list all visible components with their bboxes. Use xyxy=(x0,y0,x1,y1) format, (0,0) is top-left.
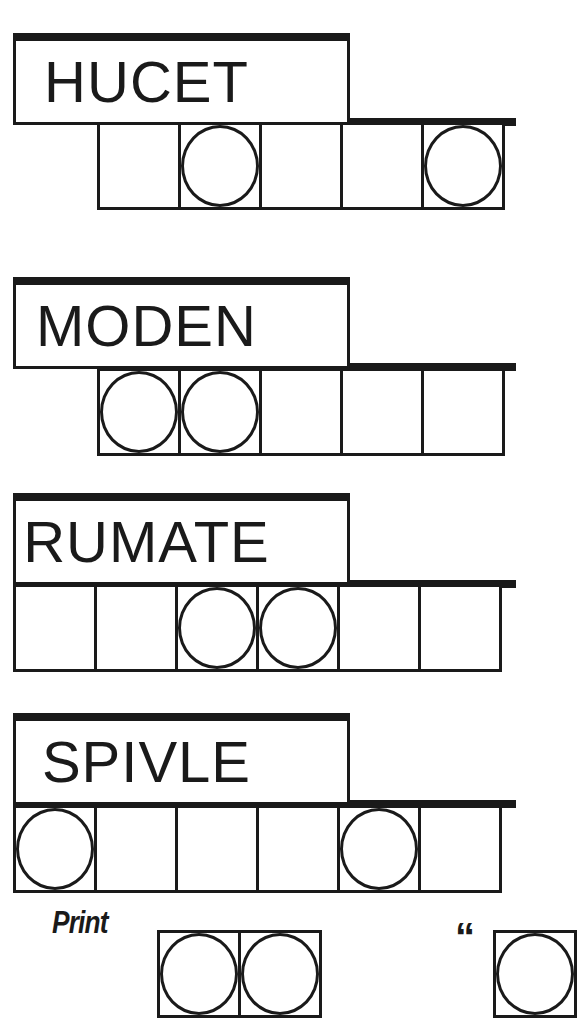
answer-group-2 xyxy=(493,930,577,1018)
letter-cell-5[interactable] xyxy=(337,805,421,893)
circle-marker-icon xyxy=(181,125,259,207)
answer-cell-3[interactable] xyxy=(493,930,577,1018)
letter-cells xyxy=(13,584,502,672)
scrambled-word-box: SPIVLE xyxy=(13,713,350,805)
answer-cell-1[interactable] xyxy=(157,930,241,1018)
scrambled-word: MODEN xyxy=(16,291,347,361)
circle-marker-icon xyxy=(424,125,502,207)
circle-marker-icon xyxy=(100,371,178,453)
letter-cell-3[interactable] xyxy=(259,368,343,456)
letter-cell-3[interactable] xyxy=(175,805,259,893)
circle-marker-icon xyxy=(340,808,418,890)
letter-cell-6[interactable] xyxy=(418,584,502,672)
letter-cell-5[interactable] xyxy=(337,584,421,672)
circle-marker-icon xyxy=(16,808,94,890)
letter-cell-4[interactable] xyxy=(256,805,340,893)
scrambled-word-box: MODEN xyxy=(13,277,350,369)
letter-cells xyxy=(97,368,505,456)
letter-cell-1[interactable] xyxy=(13,584,97,672)
scrambled-word: HUCET xyxy=(16,47,347,117)
letter-cell-3[interactable] xyxy=(175,584,259,672)
scrambled-word-box: RUMATE xyxy=(13,493,350,585)
circle-marker-icon xyxy=(259,587,337,669)
scrambled-word: RUMATE xyxy=(16,507,347,577)
letter-cell-4[interactable] xyxy=(340,122,424,210)
letter-cell-6[interactable] xyxy=(418,805,502,893)
circle-marker-icon xyxy=(241,933,319,1015)
letter-cell-5[interactable] xyxy=(421,122,505,210)
answer-cell-2[interactable] xyxy=(238,930,322,1018)
letter-cell-2[interactable] xyxy=(94,584,178,672)
print-label: Print xyxy=(52,905,108,939)
circle-marker-icon xyxy=(160,933,238,1015)
answer-section: Print “ xyxy=(0,895,539,949)
letter-cell-2[interactable] xyxy=(178,122,262,210)
scrambled-word-box: HUCET xyxy=(13,33,350,125)
letter-cell-4[interactable] xyxy=(256,584,340,672)
letter-cell-3[interactable] xyxy=(259,122,343,210)
circle-marker-icon xyxy=(181,371,259,453)
circle-marker-icon xyxy=(178,587,256,669)
answer-group-1 xyxy=(157,930,322,1018)
letter-cell-1[interactable] xyxy=(97,122,181,210)
letter-cell-5[interactable] xyxy=(421,368,505,456)
letter-cells xyxy=(97,122,505,210)
scrambled-word: SPIVLE xyxy=(16,727,347,797)
open-quote-mark: “ xyxy=(455,917,475,957)
letter-cells xyxy=(13,805,502,893)
letter-cell-2[interactable] xyxy=(178,368,262,456)
letter-cell-2[interactable] xyxy=(94,805,178,893)
letter-cell-1[interactable] xyxy=(13,805,97,893)
circle-marker-icon xyxy=(496,933,574,1015)
letter-cell-4[interactable] xyxy=(340,368,424,456)
letter-cell-1[interactable] xyxy=(97,368,181,456)
